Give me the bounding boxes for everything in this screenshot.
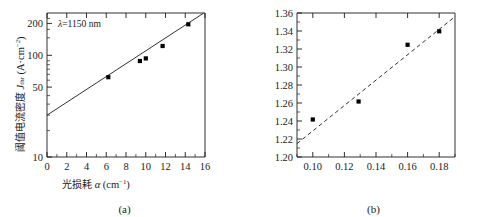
panel-a-yunit-pre: (A·cm <box>15 47 26 74</box>
svg-text:200: 200 <box>27 18 43 29</box>
svg-text:1.22: 1.22 <box>275 134 293 145</box>
svg-text:4: 4 <box>84 161 90 172</box>
svg-text:2: 2 <box>64 161 69 172</box>
panel-a-yticklabels: 10 50 100 200 <box>27 18 43 163</box>
svg-text:16: 16 <box>200 161 211 172</box>
panel-b-yticks <box>297 13 302 157</box>
data-point <box>144 56 148 60</box>
panel-a: 10 50 100 200 0 2 4 6 8 10 12 14 16 λ=11… <box>0 0 249 217</box>
svg-text:6: 6 <box>104 161 109 172</box>
svg-text:12: 12 <box>160 161 171 172</box>
data-point <box>161 44 165 48</box>
svg-text:1.20: 1.20 <box>275 152 293 163</box>
svg-text:10: 10 <box>141 161 152 172</box>
panel-a-axes <box>47 13 205 157</box>
panel-a-xunit-post: ) <box>126 179 130 190</box>
svg-text:14: 14 <box>180 161 191 172</box>
svg-text:1.32: 1.32 <box>275 44 293 55</box>
svg-text:100: 100 <box>27 50 43 61</box>
panel-a-yunit-post: ) <box>15 36 26 40</box>
data-point <box>437 29 441 33</box>
svg-text:8: 8 <box>123 161 128 172</box>
svg-text:0.10: 0.10 <box>304 161 322 172</box>
svg-text:0.12: 0.12 <box>335 161 353 172</box>
panel-a-ylabel: 阈值电流密度 Jthr (A·cm−2) <box>12 36 27 152</box>
panel-a-xticks <box>47 13 205 157</box>
panel-a-caption: (a) <box>0 203 249 215</box>
svg-text:0.14: 0.14 <box>367 161 386 172</box>
panel-a-xlabel-sym: α <box>95 179 101 190</box>
svg-text:50: 50 <box>33 82 44 93</box>
panel-a-yticks <box>47 23 52 157</box>
figure-container: 10 50 100 200 0 2 4 6 8 10 12 14 16 λ=11… <box>0 0 498 217</box>
panel-a-xlabel-cjk: 光损耗 <box>62 179 92 190</box>
data-point <box>357 99 361 103</box>
panel-b-xticks <box>313 13 439 157</box>
panel-a-ylabel-sub: thr <box>18 77 25 85</box>
svg-text:1.26: 1.26 <box>275 98 293 109</box>
panel-a-yunit-sup: −2 <box>14 40 21 47</box>
panel-a-xticklabels: 0 2 4 6 8 10 12 14 16 <box>44 161 210 172</box>
svg-text:1.24: 1.24 <box>275 116 294 127</box>
panel-b-axes <box>297 13 455 157</box>
panel-a-xlabel: 光损耗 α (cm−1) <box>62 176 130 191</box>
panel-a-data-points <box>106 22 190 79</box>
panel-a-annotation-text: =1150 nm <box>62 18 101 29</box>
panel-b-caption: (b) <box>249 203 498 215</box>
panel-a-annotation: λ=1150 nm <box>58 18 101 30</box>
svg-text:0: 0 <box>44 161 49 172</box>
panel-a-ylabel-sym: J <box>15 85 26 90</box>
svg-text:10: 10 <box>33 152 44 163</box>
data-point <box>186 22 190 26</box>
data-point <box>106 75 110 79</box>
panel-b-data-points <box>311 29 442 121</box>
data-point <box>311 117 315 121</box>
panel-a-xunit-pre: (cm <box>103 179 119 190</box>
panel-a-ylabel-cjk: 阈值电流密度 <box>15 92 26 152</box>
svg-text:1.28: 1.28 <box>275 80 293 91</box>
svg-text:1.30: 1.30 <box>275 62 293 73</box>
panel-b-yticklabels: 1.20 1.22 1.24 1.26 1.28 1.30 1.32 1.34 … <box>275 8 294 163</box>
svg-text:1.34: 1.34 <box>275 26 294 37</box>
panel-b-fit-line <box>297 17 455 144</box>
panel-b: 1.20 1.22 1.24 1.26 1.28 1.30 1.32 1.34 … <box>249 0 498 217</box>
panel-b-plot: 1.20 1.22 1.24 1.26 1.28 1.30 1.32 1.34 … <box>249 0 498 217</box>
data-point <box>406 43 410 47</box>
panel-b-xticklabels: 0.10 0.12 0.14 0.16 0.18 <box>304 161 449 172</box>
svg-text:0.18: 0.18 <box>430 161 448 172</box>
svg-text:1.36: 1.36 <box>275 8 293 19</box>
data-point <box>138 59 142 63</box>
svg-text:0.16: 0.16 <box>398 161 416 172</box>
